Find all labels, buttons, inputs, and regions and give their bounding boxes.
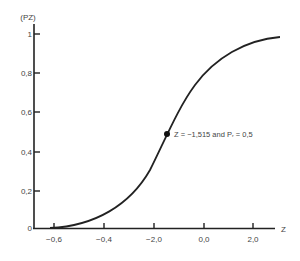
x-ticks: −0,6−0,4−2,00,02,0 [46,223,259,244]
y-axis-label: (PZ) [20,13,36,22]
x-tick-label: 0,0 [198,235,210,244]
point-annotation: Z = −1,515 and Pᵣ = 0,5 [174,130,253,139]
y-ticks: 10,80,60,40,20 [21,30,40,233]
x-tick-label: 2,0 [247,235,259,244]
y-tick-label: 1 [28,30,33,39]
y-tick-label: 0,8 [21,69,33,78]
x-tick-label: −2,0 [146,235,162,244]
x-tick-label: −0,4 [96,235,112,244]
x-tick-label: −0,6 [46,235,62,244]
y-tick-label: 0 [28,224,33,233]
cdf-chart: (PZ) Z 10,80,60,40,20 −0,6−0,4−2,00,02,0… [0,0,300,261]
y-tick-label: 0,2 [21,187,33,196]
x-axis-label: Z [281,225,286,234]
median-point [164,131,170,137]
y-tick-label: 0,4 [21,148,33,157]
y-tick-label: 0,6 [21,108,33,117]
